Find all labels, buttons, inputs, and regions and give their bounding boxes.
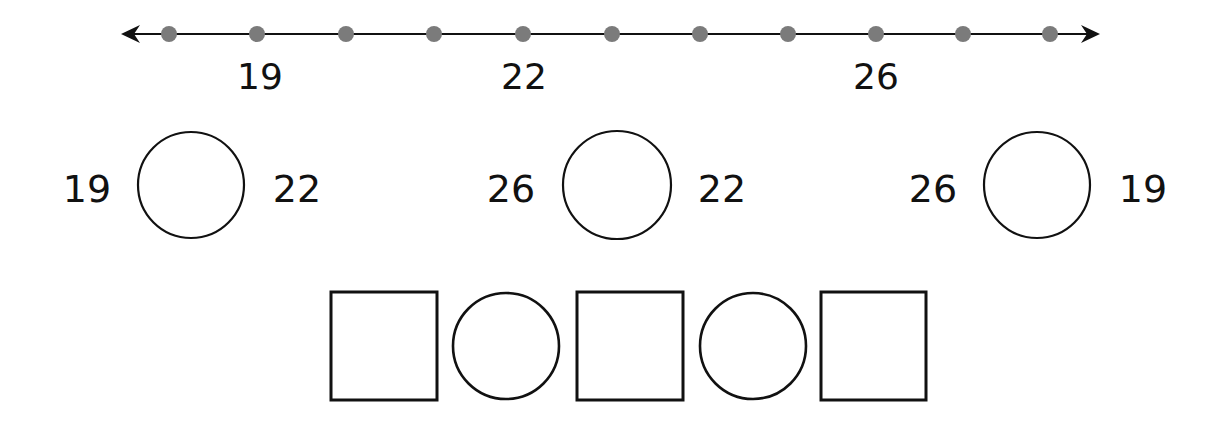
number-answer-box[interactable] (331, 292, 437, 400)
number-line-dot (249, 26, 265, 42)
number-line-dot (868, 26, 884, 42)
number-line-label-22: 22 (501, 56, 547, 97)
number-line-label-19: 19 (237, 56, 283, 97)
ordering-row (331, 292, 926, 400)
number-answer-box[interactable] (821, 292, 926, 400)
symbol-answer-circle[interactable] (453, 293, 559, 399)
symbol-answer-circle[interactable] (700, 293, 806, 399)
comparison-right-number: 19 (1119, 167, 1167, 211)
number-line: 19 22 26 (121, 25, 1100, 97)
number-line-dot (780, 26, 796, 42)
comparison-answer-circle[interactable] (138, 132, 244, 238)
worksheet: 19 22 26 19 22 26 22 26 19 (0, 0, 1222, 425)
comparison-right-number: 22 (273, 167, 321, 211)
number-line-dot (955, 26, 971, 42)
comparison-left-number: 26 (909, 167, 957, 211)
number-line-dot (515, 26, 531, 42)
comparison-answer-circle[interactable] (984, 132, 1090, 238)
comparison-1: 19 22 (63, 132, 321, 238)
comparison-answer-circle[interactable] (563, 131, 671, 239)
number-answer-box[interactable] (577, 292, 683, 400)
number-line-dot (426, 26, 442, 42)
number-line-dot (604, 26, 620, 42)
comparison-left-number: 26 (487, 167, 535, 211)
number-line-dot (692, 26, 708, 42)
number-line-dot (161, 26, 177, 42)
number-line-label-26: 26 (853, 56, 899, 97)
number-line-dot (1042, 26, 1058, 42)
number-line-dot (338, 26, 354, 42)
comparison-2: 26 22 (487, 131, 746, 239)
comparison-left-number: 19 (63, 167, 111, 211)
comparison-right-number: 22 (698, 167, 746, 211)
comparison-3: 26 19 (909, 132, 1167, 238)
